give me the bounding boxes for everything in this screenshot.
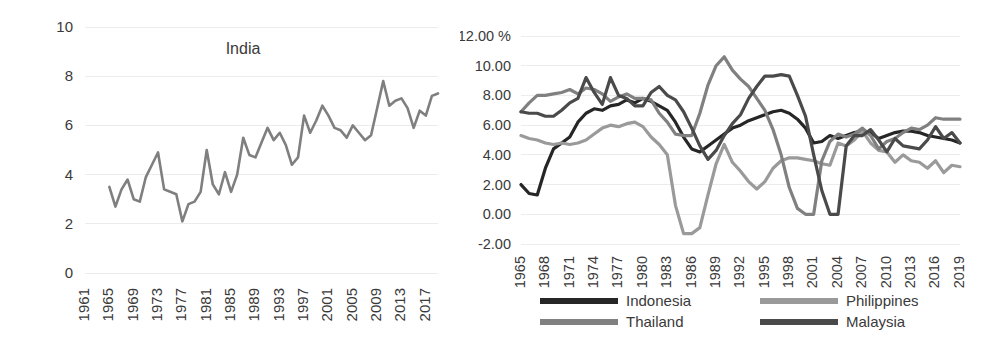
x-tick-label: 1989 xyxy=(245,288,262,321)
x-tick-label: 2013 xyxy=(902,256,918,288)
y-tick-label: 6 xyxy=(65,116,73,133)
y-tick-label: 2 xyxy=(65,215,73,232)
x-tick-label: 2007 xyxy=(853,256,869,288)
y-axis-labels: -2.000.002.004.006.008.0010.0012.00 % xyxy=(460,28,511,252)
x-tick-label: 1989 xyxy=(707,256,723,288)
x-tick-label: 1985 xyxy=(221,288,238,321)
x-tick-label: 1969 xyxy=(124,288,141,321)
chart-legend: IndonesiaPhilippinesThailandMalaysia xyxy=(540,292,919,330)
legend-item-philippines[interactable]: Philippines xyxy=(760,292,919,309)
x-axis-labels: 1965196819711974197719801983198619891992… xyxy=(512,256,967,288)
x-tick-label: 1965 xyxy=(99,288,116,321)
x-tick-label: 1974 xyxy=(585,256,601,288)
legend-item-thailand[interactable]: Thailand xyxy=(540,313,684,330)
x-tick-label: 2001 xyxy=(804,256,820,288)
x-tick-label: 2005 xyxy=(343,288,360,321)
series-group xyxy=(521,57,960,234)
y-tick-label: 2.00 xyxy=(483,177,511,193)
x-tick-label: 1973 xyxy=(148,288,165,321)
x-tick-label: 2004 xyxy=(829,256,845,288)
india-line-chart: 0246810196119651969197319771981198519891… xyxy=(0,0,460,357)
y-tick-label: -2.00 xyxy=(478,236,511,252)
y-axis-labels: 0246810 xyxy=(56,18,73,281)
gridlines xyxy=(85,27,438,273)
x-tick-label: 2016 xyxy=(926,256,942,288)
figure-container: 0246810196119651969197319771981198519891… xyxy=(0,0,983,357)
legend-label-malaysia: Malaysia xyxy=(846,313,906,330)
x-tick-label: 2013 xyxy=(391,288,408,321)
x-tick-label: 2001 xyxy=(318,288,335,321)
x-tick-label: 2009 xyxy=(367,288,384,321)
legend-label-indonesia: Indonesia xyxy=(626,292,692,309)
y-tick-label: 0 xyxy=(65,264,73,281)
y-tick-label: 8.00 xyxy=(483,87,511,103)
legend-label-thailand: Thailand xyxy=(626,313,684,330)
x-tick-label: 1977 xyxy=(609,256,625,288)
legend-label-philippines: Philippines xyxy=(846,292,919,309)
asean-line-chart: -2.000.002.004.006.008.0010.0012.00 %196… xyxy=(460,0,983,357)
x-tick-label: 1993 xyxy=(270,288,287,321)
x-tick-label: 1977 xyxy=(172,288,189,321)
x-tick-label: 2017 xyxy=(416,288,433,321)
x-tick-label: 1986 xyxy=(683,256,699,288)
x-tick-label: 1965 xyxy=(512,256,528,288)
y-tick-label: 4.00 xyxy=(483,147,511,163)
y-tick-label: 8 xyxy=(65,67,73,84)
x-tick-label: 1961 xyxy=(75,288,92,321)
x-tick-label: 1971 xyxy=(561,256,577,288)
x-tick-label: 1997 xyxy=(294,288,311,321)
x-tick-label: 1968 xyxy=(536,256,552,288)
legend-item-indonesia[interactable]: Indonesia xyxy=(540,292,692,309)
x-tick-label: 2019 xyxy=(951,256,967,288)
series-group xyxy=(109,81,438,221)
x-tick-label: 2010 xyxy=(878,256,894,288)
y-tick-label: 4 xyxy=(65,166,73,183)
series-line-india xyxy=(109,81,438,221)
y-tick-label: 10 xyxy=(56,18,73,35)
y-tick-label: 10.00 xyxy=(475,58,511,74)
y-tick-label: 12.00 % xyxy=(460,28,511,44)
x-tick-label: 1983 xyxy=(658,256,674,288)
x-axis-labels: 1961196519691973197719811985198919931997… xyxy=(75,288,433,321)
y-tick-label: 0.00 xyxy=(483,206,511,222)
chart-title: India xyxy=(226,40,261,57)
x-tick-label: 1992 xyxy=(731,256,747,288)
x-tick-label: 1995 xyxy=(756,256,772,288)
x-tick-label: 1998 xyxy=(780,256,796,288)
y-tick-label: 6.00 xyxy=(483,117,511,133)
x-tick-label: 1980 xyxy=(634,256,650,288)
chart-panel-india: 0246810196119651969197319771981198519891… xyxy=(0,0,460,357)
x-tick-label: 1981 xyxy=(197,288,214,321)
legend-item-malaysia[interactable]: Malaysia xyxy=(760,313,906,330)
chart-panel-asean: -2.000.002.004.006.008.0010.0012.00 %196… xyxy=(460,0,983,357)
